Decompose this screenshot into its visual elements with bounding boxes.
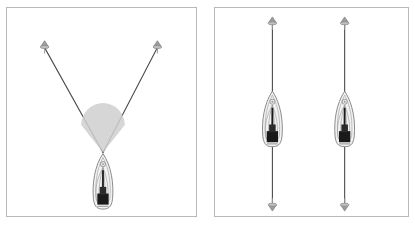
wind-shadow-cone-cone [81, 103, 125, 153]
marker-left-bottom [268, 198, 277, 211]
boat-right-bow-fitting-center [344, 101, 346, 103]
marker-left-top-base [268, 22, 277, 25]
boat-right-crew-torso [341, 124, 348, 132]
marker-top-left [40, 41, 49, 54]
boat-left-bow-fitting-center [272, 101, 274, 103]
boat-center-crew-torso [100, 187, 107, 195]
marker-right-top [340, 17, 349, 30]
boat-center [93, 154, 113, 209]
marker-right-top-base [340, 22, 349, 25]
marker-left-top [268, 17, 277, 30]
boat-right-crew [339, 131, 350, 142]
marker-left-bottom-base [268, 203, 277, 206]
panel-left [6, 7, 197, 217]
marker-top-right [153, 41, 162, 54]
panel-right-canvas [215, 8, 408, 216]
boat-left-crew [267, 131, 278, 142]
marker-top-right-base [153, 45, 162, 48]
marker-right-bottom [340, 198, 349, 211]
wind-shadow-cone [81, 103, 125, 153]
boat-center-bow-fitting-center [102, 163, 104, 165]
marker-top-left-base [40, 45, 49, 48]
diagram-stage [0, 0, 415, 226]
boat-left [262, 91, 282, 146]
panel-right [214, 7, 409, 217]
boat-center-crew [97, 194, 108, 205]
marker-right-bottom-base [340, 203, 349, 206]
boat-left-crew-torso [269, 124, 276, 132]
panel-left-canvas [7, 8, 196, 216]
boat-right [335, 91, 355, 146]
